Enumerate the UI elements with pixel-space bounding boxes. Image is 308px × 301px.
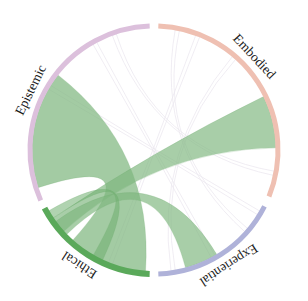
chord-diagram: EmbodiedExperientialEthicalEpistemic <box>0 0 308 301</box>
